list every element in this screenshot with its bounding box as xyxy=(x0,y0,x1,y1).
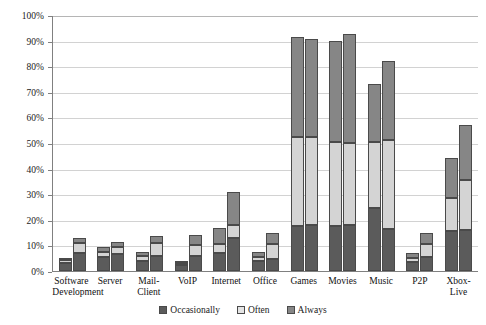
y-axis-tick-label: 20% xyxy=(0,216,44,226)
bar-segment-occasionally xyxy=(291,226,304,271)
y-axis-tick-label: 10% xyxy=(0,241,44,251)
bar-segment-always xyxy=(382,61,395,140)
bar-segment-often xyxy=(213,244,226,253)
legend-label: Always xyxy=(298,305,327,315)
stacked-bar xyxy=(329,41,342,271)
bar-segment-often xyxy=(329,142,342,226)
bar-groups xyxy=(53,16,478,271)
y-axis-tick-label: 40% xyxy=(0,165,44,175)
bar-group xyxy=(97,16,124,271)
bar-segment-often xyxy=(343,143,356,225)
x-axis-label: Server xyxy=(91,276,129,306)
bar-segment-occasionally xyxy=(382,229,395,271)
bar-segment-always xyxy=(445,158,458,198)
x-axis-label: Office xyxy=(246,276,284,306)
bar-segment-occasionally xyxy=(420,257,433,271)
bar-group xyxy=(175,16,202,271)
stacked-bar xyxy=(59,258,72,271)
bar-segment-occasionally xyxy=(445,231,458,271)
stacked-bar xyxy=(445,158,458,271)
bar-segment-occasionally xyxy=(97,257,110,271)
stacked-bar xyxy=(382,61,395,271)
legend-swatch-icon xyxy=(237,306,245,314)
y-axis-tick-label: 0% xyxy=(0,267,44,277)
bar-segment-occasionally xyxy=(189,256,202,271)
stacked-bar xyxy=(305,39,318,271)
bar-segment-often xyxy=(459,180,472,230)
bar-segment-always xyxy=(227,192,240,225)
stacked-bar xyxy=(291,37,304,271)
x-axis-label: Xbox-Live xyxy=(440,276,478,306)
y-axis-tick-label: 70% xyxy=(0,88,44,98)
y-axis-tick-mark xyxy=(48,272,52,273)
stacked-bar xyxy=(368,84,381,271)
y-axis-tick-label: 80% xyxy=(0,62,44,72)
stacked-bar xyxy=(111,242,124,271)
bar-segment-often xyxy=(73,243,86,253)
stacked-bar xyxy=(73,238,86,271)
stacked-bar xyxy=(227,192,240,271)
stacked-bar xyxy=(150,236,163,271)
bar-segment-occasionally xyxy=(227,238,240,271)
bar-segment-often xyxy=(368,142,381,209)
stacked-bar xyxy=(406,253,419,271)
stacked-bar xyxy=(266,233,279,271)
y-axis-ticks: 100%90%80%70%60%50%40%30%20%10%0% xyxy=(0,0,48,256)
bar-group xyxy=(329,16,356,271)
stacked-bar xyxy=(459,125,472,271)
bar-segment-occasionally xyxy=(150,256,163,271)
bar-segment-often xyxy=(445,198,458,231)
bar-segment-occasionally xyxy=(136,261,149,271)
bar-segment-occasionally xyxy=(252,261,265,271)
legend-label: Occasionally xyxy=(170,305,220,315)
stacked-bar xyxy=(213,227,226,271)
bar-segment-occasionally xyxy=(59,263,72,271)
bar-group xyxy=(136,16,163,271)
x-axis-label: Games xyxy=(285,276,323,306)
y-axis-tick-label: 100% xyxy=(0,11,44,21)
x-axis-label: Movies xyxy=(323,276,361,306)
legend-item: Occasionally xyxy=(159,305,220,315)
bar-segment-always xyxy=(459,125,472,180)
bar-segment-often xyxy=(382,140,395,228)
bar-segment-occasionally xyxy=(73,253,86,271)
bar-group xyxy=(291,16,318,271)
bar-group xyxy=(59,16,86,271)
bar-segment-often xyxy=(189,245,202,255)
bar-group xyxy=(252,16,279,271)
bar-segment-occasionally xyxy=(305,225,318,271)
bar-segment-always xyxy=(266,233,279,245)
y-axis-tick-label: 60% xyxy=(0,113,44,123)
x-axis-label: Software Development xyxy=(52,276,90,306)
bar-segment-occasionally xyxy=(329,226,342,271)
stacked-bar-chart: 100%90%80%70%60%50%40%30%20%10%0% Softwa… xyxy=(0,0,486,325)
bar-segment-occasionally xyxy=(459,230,472,271)
bar-segment-occasionally xyxy=(406,262,419,271)
bar-segment-always xyxy=(329,41,342,142)
bar-segment-often xyxy=(291,137,304,227)
y-axis-tick-label: 50% xyxy=(0,139,44,149)
bar-group xyxy=(406,16,433,271)
stacked-bar xyxy=(343,34,356,271)
stacked-bar xyxy=(420,233,433,271)
stacked-bar xyxy=(175,261,188,271)
bar-segment-always xyxy=(213,228,226,245)
bar-group xyxy=(368,16,395,271)
bar-segment-often xyxy=(266,244,279,259)
stacked-bar xyxy=(97,247,110,271)
bar-segment-occasionally xyxy=(368,208,381,271)
stacked-bar xyxy=(189,235,202,271)
x-axis-labels: Software DevelopmentServerMail-ClientVoI… xyxy=(52,276,478,306)
plot-area xyxy=(52,16,478,272)
legend-label: Often xyxy=(248,305,270,315)
stacked-bar xyxy=(252,252,265,271)
x-axis-label: P2P xyxy=(401,276,439,306)
bar-group xyxy=(445,16,472,271)
x-axis-label: Internet xyxy=(207,276,245,306)
legend-item: Always xyxy=(287,305,327,315)
y-axis-tick-label: 90% xyxy=(0,37,44,47)
bar-segment-always xyxy=(368,84,381,142)
bar-segment-occasionally xyxy=(343,225,356,271)
bar-segment-occasionally xyxy=(266,259,279,271)
bar-segment-often xyxy=(111,247,124,255)
